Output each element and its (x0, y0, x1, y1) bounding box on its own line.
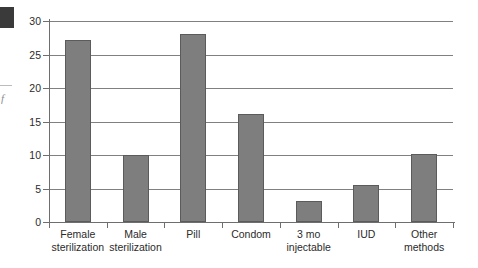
x-axis-line (49, 222, 455, 223)
y-axis-label-wrap: 10 (15, 150, 41, 160)
gridline (49, 21, 453, 22)
bar (411, 154, 437, 222)
y-axis-line (49, 19, 50, 224)
bar (238, 114, 264, 222)
y-axis-label: 20 (19, 83, 41, 93)
y-axis-label: 25 (19, 50, 41, 60)
bar (65, 40, 91, 222)
y-axis-label: 5 (19, 184, 41, 194)
y-axis-label-wrap: 5 (15, 184, 41, 194)
y-axis-label: 10 (19, 150, 41, 160)
x-axis-label-line2: methods (389, 241, 459, 254)
y-axis-label-wrap: 20 (15, 83, 41, 93)
y-axis-label: 15 (19, 117, 41, 127)
x-axis-category-label: Othermethods (389, 228, 459, 254)
y-axis-label: 30 (19, 16, 41, 26)
y-axis-label-wrap: 15 (15, 117, 41, 127)
bar (296, 201, 322, 222)
bar (180, 34, 206, 222)
x-axis-label-line2: injectable (274, 241, 344, 254)
gridline (49, 55, 453, 56)
y-axis-label-wrap: 0 (15, 217, 41, 227)
y-axis-label-wrap: 25 (15, 50, 41, 60)
bar (123, 155, 149, 222)
x-axis-label-line1: Other (389, 228, 459, 241)
chart-page: f 051015202530 FemalesterilizationMalest… (0, 0, 478, 268)
bar-chart: 051015202530 FemalesterilizationMalester… (0, 0, 478, 268)
x-axis-label-line2: sterilization (101, 241, 171, 254)
y-axis-label-wrap: 30 (15, 16, 41, 26)
y-axis-label: 0 (19, 217, 41, 227)
gridline (49, 88, 453, 89)
bar (353, 185, 379, 222)
